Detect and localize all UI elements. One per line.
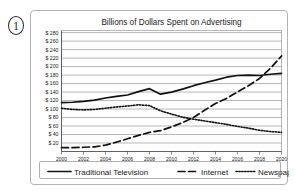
x-axis-tick-label: 2000	[56, 156, 67, 162]
figure-card: Billions of Dollars Spent on Advertising…	[30, 10, 288, 185]
series-line-internet	[62, 56, 282, 148]
legend-label-traditional-television: Traditional Television	[74, 168, 148, 177]
question-number-badge: 1	[8, 16, 24, 35]
y-axis-tick-label: $ 40	[48, 131, 58, 137]
x-axis-tick-label: 2008	[144, 156, 155, 162]
legend-label-internet: Internet	[201, 168, 229, 177]
series-line-traditional-television	[62, 73, 282, 102]
chart-svg: Billions of Dollars Spent on Advertising…	[31, 11, 289, 186]
y-axis-tick-label: $ 100	[46, 106, 59, 112]
y-axis-tick-label: $ 180	[46, 72, 59, 78]
x-axis-tick-label: 2006	[122, 156, 133, 162]
x-axis-tick-label: 2016	[232, 156, 243, 162]
x-axis-tick-label: 2018	[254, 156, 265, 162]
y-axis-tick-label: $ 260	[46, 38, 59, 44]
x-axis-tick-label: 2020	[276, 156, 287, 162]
x-axis-tick-label: 2002	[78, 156, 89, 162]
line-chart: Billions of Dollars Spent on Advertising…	[31, 11, 289, 186]
x-axis-tick-label: 2010	[166, 156, 177, 162]
y-axis-tick-label: $ 200	[46, 63, 59, 69]
y-axis-tick-label: $ 80	[48, 114, 58, 120]
y-axis-tick-label: $ 120	[46, 97, 59, 103]
y-axis-tick-label: $ 160	[46, 80, 59, 86]
x-axis-tick-label: 2014	[210, 156, 221, 162]
y-axis-tick-label: $ 220	[46, 55, 59, 61]
x-axis-tick-label: 2004	[100, 156, 111, 162]
chart-title: Billions of Dollars Spent on Advertising	[101, 18, 242, 27]
y-axis-tick-label: $ 280	[46, 30, 59, 36]
y-axis-tick-label: $ 140	[46, 89, 59, 95]
x-axis-tick-label: 2012	[188, 156, 199, 162]
legend-label-newspaper: Newspaper	[258, 168, 289, 177]
y-axis-tick-label: $ 20	[48, 140, 58, 146]
chart-page: 1 Billions of Dollars Spent on Advertisi…	[0, 0, 295, 191]
y-axis-tick-label: $ 240	[46, 47, 59, 53]
y-axis-tick-label: $ 60	[48, 123, 58, 129]
